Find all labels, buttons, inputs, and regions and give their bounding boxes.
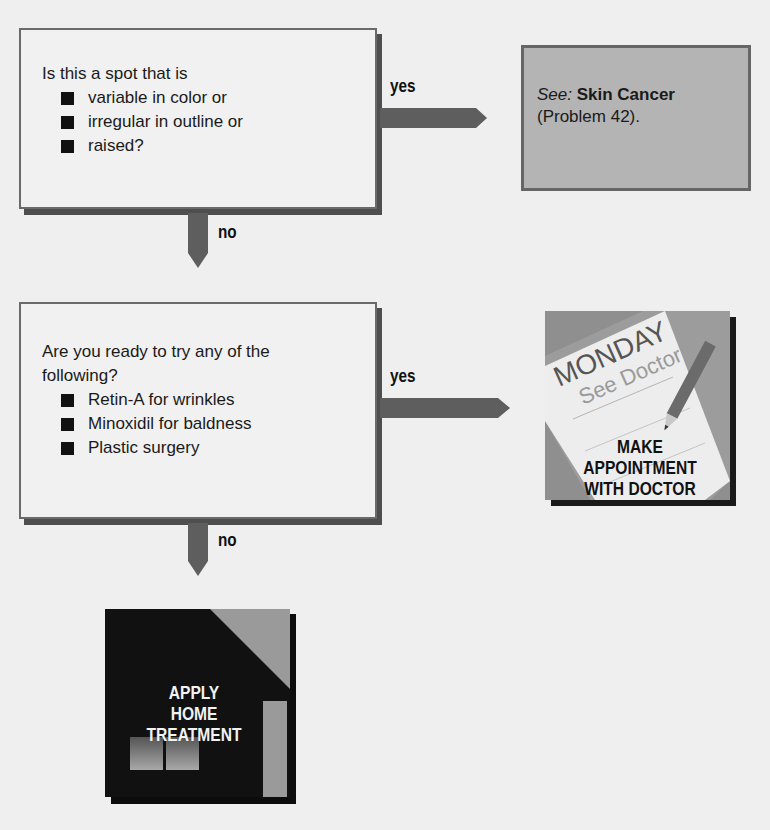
reference-line-1: See: Skin Cancer: [537, 84, 748, 106]
square-bullet-icon: [61, 140, 74, 153]
square-bullet-icon: [61, 116, 74, 129]
question-prompt-line-1: Are you ready to try any of the: [42, 340, 375, 364]
yes-arrow-icon: [380, 397, 514, 421]
question-prompt: Is this a spot that is: [42, 62, 375, 86]
reference-box-skin-cancer: See: Skin Cancer (Problem 42).: [521, 45, 751, 191]
yes-label: yes: [390, 366, 416, 387]
question-criteria-list: variable in color or irregular in outlin…: [42, 86, 375, 158]
home-treatment-caption: APPLY HOME TREATMENT: [125, 682, 263, 745]
apply-home-treatment-icon: APPLY HOME TREATMENT: [105, 609, 296, 804]
reference-link-skin-cancer[interactable]: Skin Cancer: [577, 85, 675, 104]
list-item: variable in color or: [61, 86, 375, 110]
square-bullet-icon: [61, 394, 74, 407]
no-arrow-icon: [187, 213, 209, 271]
square-bullet-icon: [61, 442, 74, 455]
no-arrow-icon: [187, 523, 209, 579]
list-item: raised?: [61, 134, 375, 158]
yes-label: yes: [390, 76, 416, 97]
list-item: Retin-A for wrinkles: [61, 388, 375, 412]
reference-line-2: (Problem 42).: [537, 106, 748, 128]
square-bullet-icon: [61, 92, 74, 105]
list-item: Minoxidil for baldness: [61, 412, 375, 436]
appointment-caption: MAKE APPOINTMENT WITH DOCTOR: [570, 436, 709, 499]
no-label: no: [218, 222, 237, 243]
square-bullet-icon: [61, 418, 74, 431]
no-label: no: [218, 530, 237, 551]
question-box-treatments: Are you ready to try any of the followin…: [19, 302, 377, 519]
yes-arrow-icon: [380, 107, 490, 131]
treatment-options-list: Retin-A for wrinkles Minoxidil for baldn…: [42, 388, 375, 460]
question-prompt-line-2: following?: [42, 364, 375, 388]
make-appointment-icon: MONDAY See Doctor MAKE APPOINTMENT WITH …: [545, 311, 736, 506]
list-item: Plastic surgery: [61, 436, 375, 460]
list-item: irregular in outline or: [61, 110, 375, 134]
question-box-spot: Is this a spot that is variable in color…: [19, 28, 377, 209]
